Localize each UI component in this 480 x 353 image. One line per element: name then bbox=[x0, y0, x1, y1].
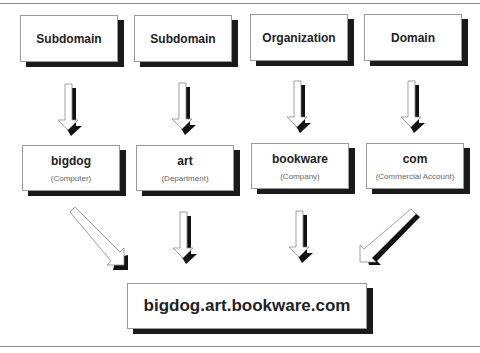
arrow-diagonal-left-icon bbox=[360, 209, 420, 265]
arrow-down-icon bbox=[287, 81, 311, 133]
arrow-down-icon bbox=[173, 212, 197, 264]
arrow-down-icon bbox=[58, 84, 82, 136]
arrow-diagonal-right-icon bbox=[70, 207, 128, 270]
arrow-down-icon bbox=[289, 211, 313, 263]
arrow-down-icon bbox=[172, 83, 196, 135]
arrow-down-icon bbox=[401, 81, 425, 133]
arrows-layer bbox=[0, 0, 480, 353]
